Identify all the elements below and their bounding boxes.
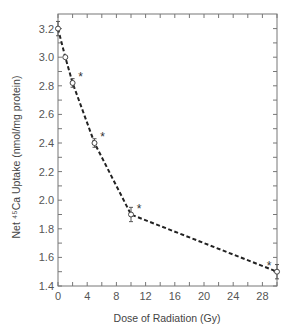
x-tick-label: 20 <box>198 290 210 302</box>
x-tick-label: 24 <box>227 290 239 302</box>
x-tick-label: 12 <box>139 290 151 302</box>
plot-frame <box>58 14 277 286</box>
data-point <box>70 80 75 85</box>
chart: 04812162024281.41.61.82.02.22.42.62.83.0… <box>0 0 291 335</box>
data-point <box>275 269 280 274</box>
data-point <box>56 26 61 31</box>
y-tick-label: 1.4 <box>39 280 54 292</box>
y-tick-label: 1.8 <box>39 223 54 235</box>
y-tick-label: 1.6 <box>39 251 54 263</box>
y-tick-label: 2.2 <box>39 166 54 178</box>
y-axis-title: Net ⁴⁵Ca Uptake (nmol/mg protein) <box>10 76 22 239</box>
y-tick-label: 3.2 <box>39 23 54 35</box>
significance-marker: * <box>267 259 272 273</box>
significance-marker: * <box>137 202 142 216</box>
y-tick-label: 3.0 <box>39 51 54 63</box>
x-tick-label: 4 <box>84 290 90 302</box>
x-tick-label: 28 <box>256 290 268 302</box>
x-axis-title: Dose of Radiation (Gy) <box>114 312 221 324</box>
significance-marker: * <box>100 130 105 144</box>
x-tick-label: 0 <box>55 290 61 302</box>
axis-ticks: 04812162024281.41.61.82.02.22.42.62.83.0… <box>39 14 277 302</box>
y-tick-label: 2.0 <box>39 194 54 206</box>
x-tick-label: 8 <box>113 290 119 302</box>
y-tick-label: 2.6 <box>39 108 54 120</box>
data-point <box>63 55 68 60</box>
significance-marker: * <box>78 70 83 84</box>
data-point <box>92 141 97 146</box>
x-tick-label: 16 <box>169 290 181 302</box>
data-series: **** <box>56 21 280 278</box>
y-tick-label: 2.8 <box>39 80 54 92</box>
data-point <box>129 212 134 217</box>
y-tick-label: 2.4 <box>39 137 54 149</box>
